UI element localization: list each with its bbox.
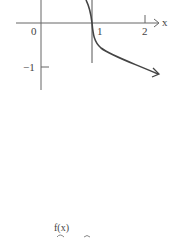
partial-glyph-right — [84, 236, 90, 238]
tick-label-2: 2 — [142, 26, 148, 37]
x-axis-label: x — [162, 17, 168, 28]
partial-glyph-left — [57, 235, 64, 237]
tick-label-1: 1 — [97, 26, 103, 37]
function-label: f(x) — [54, 223, 69, 233]
function-curve — [86, 0, 158, 74]
function-graph — [0, 0, 183, 238]
tick-label-neg1: −1 — [23, 62, 35, 73]
tick-label-0: 0 — [31, 26, 37, 37]
